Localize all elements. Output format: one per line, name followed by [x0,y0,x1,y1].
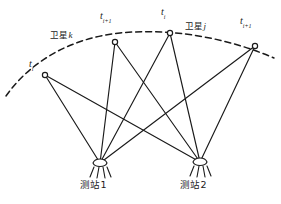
orbit-label-k-cjk: 卫星 [50,30,68,40]
station-2-dish [193,158,207,166]
station-2-leg-1 [190,166,194,176]
orbit-label-j-index: j [203,21,206,31]
epoch-label-node-3: ti [161,7,165,17]
observation-sight-lines [45,33,255,163]
station-2-label: 测站2 [180,180,207,190]
station-1-leg-2 [97,167,99,178]
epoch-label-node-4: ti+1 [240,16,252,26]
satellite-node-marker-1 [42,72,47,77]
sight-line-n3-s1 [100,33,170,163]
satellite-node-marker-2 [112,39,117,44]
sight-line-n2-s1 [100,42,115,163]
station-1-leg-3 [103,167,105,178]
diagram-canvas [0,0,281,204]
station-1-label: 测站1 [80,180,107,190]
station-2-antenna-icon [190,158,211,177]
sight-line-n3-s2 [170,33,200,162]
epoch-label-node-2-sub: i+1 [103,18,112,24]
satellite-node-marker-3 [167,30,172,35]
epoch-label-node-1: ti [29,59,33,69]
station-2-leg-3 [203,166,205,177]
satellite-orbit-arc [6,32,274,96]
station-1-antenna-icon [90,159,111,178]
epoch-label-node-2: ti+1 [100,11,112,21]
orbit-label-j-cjk: 卫星 [185,21,203,31]
sight-line-n1-s1 [45,75,100,163]
station-2-leg-4 [207,166,211,176]
sight-line-n2-s2 [115,42,200,162]
orbit-label-satellite-j: 卫星j [185,22,206,31]
orbit-label-k-index: k [68,30,72,40]
epoch-label-node-4-sub: i+1 [243,23,252,29]
station-1-dish [93,159,107,167]
sight-line-n4-s2 [200,46,255,162]
figure-root: 卫星k 卫星j ti ti+1 ti ti+1 测站1 测站2 [0,0,281,204]
orbit-dashed-path [6,32,274,96]
satellite-node-marker-4 [252,43,257,48]
orbit-label-satellite-k: 卫星k [50,31,73,40]
station-1-leg-1 [90,167,94,177]
station-2-leg-2 [197,166,199,177]
station-1-leg-4 [107,167,111,177]
sight-line-n1-s2 [45,75,200,162]
